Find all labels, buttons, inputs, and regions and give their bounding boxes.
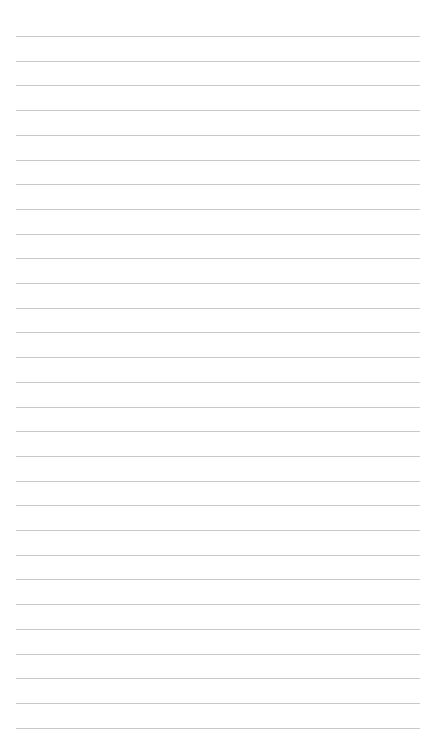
ruled-line (16, 456, 420, 457)
ruled-line (16, 36, 420, 37)
ruled-line (16, 431, 420, 432)
ruled-line (16, 234, 420, 235)
ruled-line (16, 110, 420, 111)
ruled-line (16, 160, 420, 161)
ruled-line (16, 481, 420, 482)
ruled-line (16, 382, 420, 383)
ruled-line (16, 678, 420, 679)
ruled-line (16, 579, 420, 580)
ruled-line (16, 308, 420, 309)
ruled-line (16, 629, 420, 630)
ruled-line (16, 604, 420, 605)
ruled-line (16, 184, 420, 185)
ruled-line (16, 283, 420, 284)
ruled-line (16, 703, 420, 704)
ruled-line (16, 728, 420, 729)
ruled-line (16, 258, 420, 259)
ruled-line (16, 332, 420, 333)
ruled-line (16, 555, 420, 556)
ruled-line (16, 357, 420, 358)
ruled-line (16, 135, 420, 136)
lined-paper-page (0, 0, 441, 730)
ruled-line (16, 61, 420, 62)
ruled-line (16, 209, 420, 210)
ruled-line (16, 530, 420, 531)
ruled-line (16, 407, 420, 408)
ruled-line (16, 85, 420, 86)
ruled-line (16, 505, 420, 506)
ruled-line (16, 654, 420, 655)
